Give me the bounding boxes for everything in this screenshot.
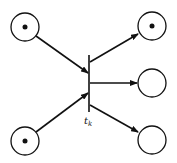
- input-place-1: [11, 13, 39, 41]
- token-icon: [150, 24, 155, 29]
- output-arc-1: [90, 34, 138, 62]
- input-place-2: [11, 127, 39, 155]
- input-arc-1: [36, 36, 88, 73]
- petri-net-diagram: tk: [0, 0, 177, 163]
- output-place-3: [138, 126, 166, 154]
- output-arc-3: [90, 105, 138, 132]
- output-place-2: [138, 69, 166, 97]
- token-icon: [23, 25, 28, 30]
- input-arc-2: [36, 93, 88, 132]
- output-place-1: [138, 12, 166, 40]
- token-icon: [23, 139, 28, 144]
- transition-label: tk: [84, 115, 92, 128]
